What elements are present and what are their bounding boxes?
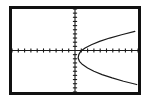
- graph-plot-area[interactable]: [12, 9, 138, 92]
- graph-svg: [12, 9, 138, 92]
- parabola-polyline: [78, 31, 137, 84]
- calculator-screen-frame: [9, 6, 141, 95]
- calculator-screenshot: [0, 0, 150, 104]
- parabola-curve: [78, 31, 137, 84]
